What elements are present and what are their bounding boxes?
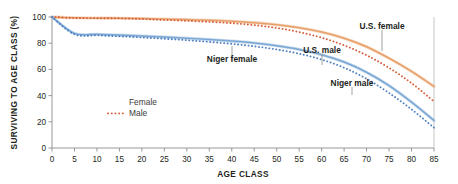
y-axis-title: SURVIVING TO AGE CLASS (%) [9, 16, 19, 150]
y-tick-label-0: 0 [41, 144, 46, 153]
x-tick-label-75: 75 [385, 155, 395, 164]
x-tick-label-35: 35 [205, 155, 215, 164]
legend-item-male-label: Male [129, 108, 147, 118]
annotation-niger-male: Niger male [331, 78, 374, 88]
chart-canvas: 0204060801000510152025303540455055606570… [0, 0, 458, 184]
x-tick-label-50: 50 [272, 155, 282, 164]
y-tick-label-60: 60 [37, 65, 47, 74]
legend-item-female-label: Female [129, 97, 157, 107]
x-axis-title: AGE CLASS [217, 169, 269, 179]
x-tick-label-0: 0 [50, 155, 55, 164]
x-tick-label-5: 5 [72, 155, 77, 164]
survival-curve-chart: 0204060801000510152025303540455055606570… [0, 0, 458, 184]
x-tick-label-40: 40 [227, 155, 237, 164]
annotation-niger-female: Niger female [207, 54, 258, 64]
y-tick-label-40: 40 [37, 92, 47, 101]
y-tick-label-100: 100 [32, 13, 46, 22]
x-tick-label-10: 10 [92, 155, 102, 164]
y-tick-label-20: 20 [37, 118, 47, 127]
x-tick-label-55: 55 [295, 155, 305, 164]
x-tick-label-65: 65 [340, 155, 350, 164]
x-tick-label-45: 45 [250, 155, 260, 164]
y-tick-label-80: 80 [37, 39, 47, 48]
x-tick-label-60: 60 [317, 155, 327, 164]
x-tick-label-70: 70 [362, 155, 372, 164]
x-tick-label-80: 80 [407, 155, 417, 164]
x-tick-label-20: 20 [137, 155, 147, 164]
annotation-u-s-male: U.S. male [303, 45, 341, 55]
x-tick-label-30: 30 [182, 155, 192, 164]
x-tick-label-15: 15 [115, 155, 125, 164]
annotation-u-s-female: U.S. female [359, 21, 404, 31]
x-tick-label-25: 25 [160, 155, 170, 164]
x-tick-label-85: 85 [429, 155, 439, 164]
